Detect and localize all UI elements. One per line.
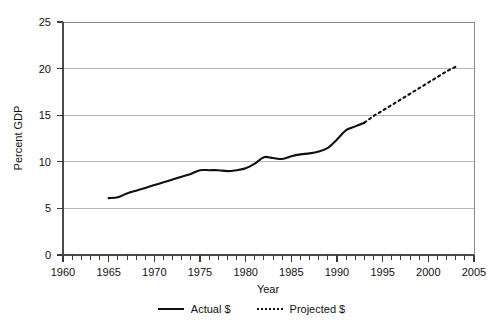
y-axis-label: 5	[45, 202, 51, 214]
chart-container: 25 20 15 10 5 0 1960 1965 1970 1975 1980…	[0, 0, 503, 330]
legend-label-actual: Actual $	[191, 303, 231, 315]
data-series-group	[109, 67, 456, 198]
y-axis-ticks	[57, 22, 63, 255]
x-axis-label: 1985	[279, 266, 303, 278]
x-axis-label: 1995	[370, 266, 394, 278]
chart-legend: Actual $ Projected $	[0, 303, 503, 315]
series-actual-line	[109, 123, 365, 198]
y-axis-label: 20	[39, 63, 51, 75]
x-axis-label: 1975	[188, 266, 212, 278]
legend-label-projected: Projected $	[290, 303, 346, 315]
x-axis-label: 1960	[51, 266, 75, 278]
y-axis-label: 0	[45, 249, 51, 261]
y-axis-label: 10	[39, 156, 51, 168]
y-axis-label: 25	[39, 16, 51, 28]
gridlines	[63, 22, 474, 208]
x-axis-label: 1970	[142, 266, 166, 278]
legend-item-actual[interactable]: Actual $	[158, 303, 231, 315]
legend-swatch-solid-icon	[158, 308, 184, 310]
y-axis-labels: 25 20 15 10 5 0	[39, 16, 51, 261]
x-axis-label: 2005	[462, 266, 486, 278]
x-axis-label: 1965	[96, 266, 120, 278]
line-chart: 25 20 15 10 5 0 1960 1965 1970 1975 1980…	[0, 0, 503, 330]
x-axis-ticks	[63, 255, 474, 262]
legend-item-projected[interactable]: Projected $	[257, 303, 346, 315]
axes	[63, 22, 474, 255]
plot-border	[63, 22, 474, 255]
x-axis-labels: 1960 1965 1970 1975 1980 1985 1990 1995 …	[51, 266, 486, 278]
y-axis-title: Percent GDP	[12, 106, 24, 171]
y-axis-label: 15	[39, 109, 51, 121]
x-axis-title: Year	[257, 283, 280, 295]
x-axis-label: 1990	[325, 266, 349, 278]
series-projected-line	[364, 67, 455, 123]
x-axis-label: 2000	[416, 266, 440, 278]
legend-swatch-dotted-icon	[257, 308, 283, 310]
x-axis-label: 1980	[233, 266, 257, 278]
